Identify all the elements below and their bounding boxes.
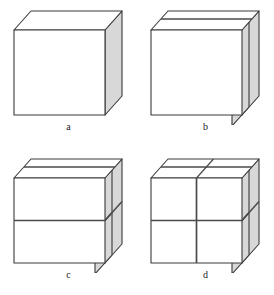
panel-label-d: d: [137, 269, 274, 281]
cube-drawing-b: [137, 0, 274, 125]
panel-label-c: c: [0, 269, 137, 281]
panel-label-a: a: [0, 121, 137, 133]
cube-front-face: [14, 30, 105, 115]
cube-panel-b: b: [137, 0, 274, 147]
cube-drawing-a: [0, 0, 137, 125]
cube-drawing-c: [0, 148, 137, 273]
cube-panel-c: c: [0, 148, 137, 295]
cube-top-face: [151, 11, 259, 30]
panel-label-b: b: [137, 121, 274, 133]
cube-front-face: [151, 30, 242, 115]
figure-root: a b: [0, 0, 274, 295]
cube-top-face: [14, 159, 122, 178]
cube-panel-d: d: [137, 148, 274, 295]
cube-drawing-d: [137, 148, 274, 273]
cube-top-face: [14, 11, 122, 30]
cube-panel-a: a: [0, 0, 137, 147]
